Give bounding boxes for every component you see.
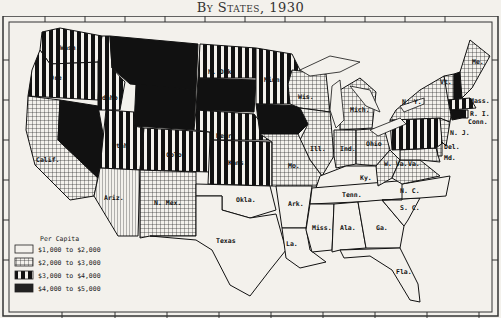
state-ariz <box>94 168 140 236</box>
svg-text:N. J.: N. J. <box>450 129 470 137</box>
svg-text:Ohio: Ohio <box>366 140 382 148</box>
svg-text:Ky.: Ky. <box>360 174 372 182</box>
state-me <box>460 40 490 98</box>
svg-text:Me.: Me. <box>472 58 484 66</box>
legend-swatch-crosshatch <box>15 258 33 266</box>
svg-text:Md.: Md. <box>444 154 456 162</box>
svg-text:Tenn.: Tenn. <box>342 191 362 199</box>
svg-text:R. I.: R. I. <box>470 110 490 118</box>
svg-text:Utah: Utah <box>112 142 128 150</box>
svg-text:Wis.: Wis. <box>298 93 314 101</box>
state-sdak <box>196 78 256 112</box>
svg-text:Texas: Texas <box>216 237 236 245</box>
legend-label-2: $2,000 to $3,000 <box>38 259 101 267</box>
svg-text:Kans.: Kans. <box>228 159 248 167</box>
state-colo <box>140 128 210 172</box>
svg-text:Vt.: Vt. <box>440 78 452 86</box>
svg-text:Calif.: Calif. <box>36 156 59 164</box>
svg-text:Va.: Va. <box>408 160 420 168</box>
legend-label-1: $1,000 to $2,000 <box>38 246 101 254</box>
svg-text:Nev.: Nev. <box>70 129 86 137</box>
svg-text:Ark.: Ark. <box>288 200 304 208</box>
legend-heading: Per Capita <box>40 235 79 243</box>
svg-text:La.: La. <box>286 240 298 248</box>
svg-text:Wyo.: Wyo. <box>152 110 168 118</box>
svg-text:Ill.: Ill. <box>310 145 326 153</box>
svg-text:Ga.: Ga. <box>376 224 388 232</box>
svg-text:Minn.: Minn. <box>264 76 284 84</box>
svg-text:Iowa: Iowa <box>264 124 280 132</box>
legend-swatch-blank <box>15 245 33 253</box>
state-wyo <box>134 84 196 130</box>
svg-text:N. C.: N. C. <box>400 187 420 195</box>
map-title: By States, 1930 <box>0 0 501 16</box>
svg-text:Mont.: Mont. <box>140 54 160 62</box>
svg-text:Miss.: Miss. <box>312 224 332 232</box>
svg-text:Okla.: Okla. <box>236 196 256 204</box>
svg-text:Del.: Del. <box>444 143 460 151</box>
legend-swatch-stripes <box>15 271 33 279</box>
svg-text:N. Y.: N. Y. <box>402 98 422 106</box>
svg-text:Fla.: Fla. <box>396 268 412 276</box>
legend-label-4: $4,000 to $5,000 <box>38 285 101 293</box>
svg-text:Ind.: Ind. <box>340 145 356 153</box>
svg-text:Ariz.: Ariz. <box>104 194 124 202</box>
svg-text:Ala.: Ala. <box>340 224 356 232</box>
state-wis <box>288 70 330 112</box>
svg-text:S. C.: S. C. <box>400 204 420 212</box>
svg-text:S. Dak.: S. Dak. <box>208 98 235 106</box>
svg-text:Nebr.: Nebr. <box>216 132 236 140</box>
svg-text:Conn.: Conn. <box>468 118 488 126</box>
state-ri <box>462 110 468 118</box>
state-nj <box>440 118 450 146</box>
svg-text:W. Va.: W. Va. <box>384 160 407 168</box>
map-legend: Per Capita $1,000 to $2,000 $2,000 to $3… <box>15 235 101 293</box>
legend-swatch-solid <box>15 284 33 292</box>
state-conn <box>450 110 462 120</box>
svg-text:Mich.: Mich. <box>350 106 370 114</box>
svg-text:Colo.: Colo. <box>166 151 186 159</box>
us-choropleth-map: Wash. Ore. Idaho Calif. Nev. Mont. Wyo. … <box>0 16 501 318</box>
svg-text:Idaho: Idaho <box>98 94 118 102</box>
legend-label-3: $3,000 to $4,000 <box>38 272 101 280</box>
svg-text:Mass.: Mass. <box>470 97 490 105</box>
svg-text:Wash.: Wash. <box>60 44 80 52</box>
svg-text:N. Mex.: N. Mex. <box>154 199 181 207</box>
svg-text:Ore.: Ore. <box>50 74 66 82</box>
svg-text:Mo.: Mo. <box>288 162 300 170</box>
svg-text:N. Dak.: N. Dak. <box>208 68 235 76</box>
